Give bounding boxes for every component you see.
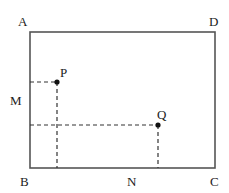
- rectangle-diagram: A D B C M N P Q: [0, 0, 229, 193]
- label-p: P: [60, 65, 67, 80]
- point-q: [155, 122, 160, 127]
- rectangle-abcd: [30, 32, 215, 168]
- label-n: N: [127, 174, 137, 189]
- label-a: A: [18, 14, 28, 29]
- label-c: C: [210, 174, 219, 189]
- label-b: B: [20, 174, 29, 189]
- label-m: M: [10, 93, 22, 108]
- label-d: D: [209, 14, 218, 29]
- point-p: [54, 79, 59, 84]
- label-q: Q: [157, 107, 167, 122]
